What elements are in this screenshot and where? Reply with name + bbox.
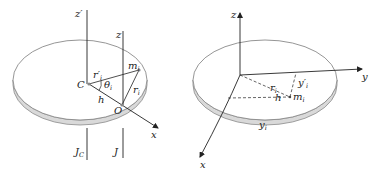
label-z: z	[115, 29, 122, 40]
left-figure: z′ z C O h θi r′i ri mi x JC J	[13, 8, 158, 160]
label-h: h	[275, 92, 281, 103]
label-z-prime: z′	[74, 8, 83, 19]
label-z: z	[230, 9, 237, 20]
label-J-C: JC	[73, 146, 84, 159]
disk-top	[193, 40, 337, 120]
label-C: C	[77, 79, 85, 90]
point-C	[87, 82, 90, 85]
label-J: J	[112, 146, 119, 157]
point-m	[289, 96, 291, 98]
label-y: y	[361, 71, 368, 82]
label-x: x	[151, 129, 157, 140]
label-h: h	[98, 94, 104, 105]
label-O: O	[114, 105, 122, 116]
right-figure: z y x ri h y′i mi yi	[193, 9, 368, 170]
diagram-canvas: z′ z C O h θi r′i ri mi x JC J z y x	[0, 0, 375, 173]
label-x: x	[200, 159, 206, 170]
